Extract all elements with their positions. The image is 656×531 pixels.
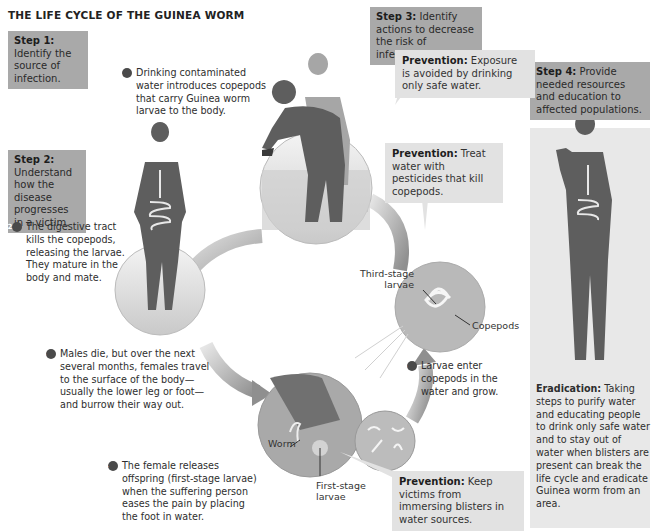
prevention-box-blisters: Prevention: Keep victims from immersing … — [392, 471, 524, 531]
stage-number-badge: 5 — [407, 361, 417, 371]
stage-2-note: 2The digestive tract kills the copepods,… — [12, 221, 126, 285]
label-first-stage-larvae: First-stage larvae — [316, 480, 366, 502]
prevention-box-drinking: Prevention: Exposure is avoided by drink… — [395, 50, 535, 98]
arrow-stage3-to-4 — [206, 345, 258, 392]
stage-number-badge: 2 — [12, 222, 22, 232]
stage-3-note: 3Males die, but over the next several mo… — [46, 348, 210, 412]
label-copepods: Copepods — [472, 320, 519, 331]
label-worm: Worm — [268, 438, 296, 449]
label-third-stage-larvae: Third-stage larvae — [346, 268, 414, 290]
step-1-box: Step 1: Identify the source of infection… — [8, 31, 88, 89]
stage-5-note: 5Larvae enter copepods in the water and … — [407, 360, 499, 398]
stage-number-badge: 3 — [46, 349, 56, 359]
stage-1-note: 1Drinking contaminated water introduces … — [122, 67, 276, 118]
prevention-box-pesticides: Prevention: Treat water with pesticides … — [385, 143, 503, 203]
stage-4-note: 4The female releases offspring (first-st… — [108, 460, 262, 524]
stage-number-badge: 1 — [122, 68, 132, 78]
step-4-box: Step 4: Provide needed resources and edu… — [530, 62, 650, 120]
bowl-icon — [262, 148, 274, 156]
eradication-text: Eradication: Taking steps to purify wate… — [536, 383, 650, 511]
page-title: THE LIFE CYCLE OF THE GUINEA WORM — [8, 9, 245, 21]
arrow-stage5-to-1 — [370, 200, 402, 270]
stage-number-badge: 4 — [108, 461, 118, 471]
